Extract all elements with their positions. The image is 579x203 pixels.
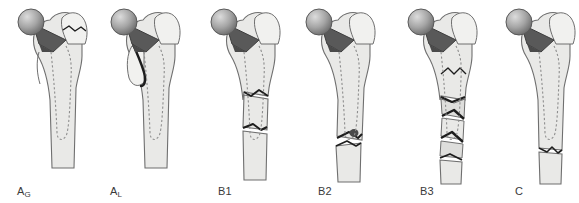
panel-al	[99, 0, 195, 203]
prosthesis-head-b1	[211, 9, 237, 35]
femur-shaft-distal-b2	[336, 143, 361, 182]
prosthesis-head-al	[111, 9, 137, 35]
panel-label-c-main: C	[515, 185, 523, 197]
panel-label-b2-main: B2	[318, 185, 332, 197]
femur-shaft-distal-c	[539, 152, 562, 184]
panel-label-ag-main: A	[17, 185, 25, 197]
panel-label-b3: B3	[420, 185, 434, 197]
femur-illustration-b2	[294, 0, 390, 203]
prosthesis-head-b2	[306, 9, 332, 35]
femur-shaft-segment-distal-b1	[243, 131, 267, 180]
femur-illustration-c	[494, 0, 579, 203]
panel-label-c: C	[515, 185, 523, 197]
vancouver-classification-figure: AG AL	[0, 0, 579, 203]
panel-label-b1: B1	[218, 185, 232, 197]
femur-illustration-b1	[199, 0, 295, 203]
panel-c	[494, 0, 579, 203]
panel-label-b2: B2	[318, 185, 332, 197]
prosthesis-head-b3	[408, 9, 434, 35]
prosthesis-head-ag	[18, 9, 44, 35]
prosthesis-head-c	[506, 9, 532, 35]
femur-illustration-al	[99, 0, 195, 203]
panel-label-al-main: A	[110, 185, 118, 197]
panel-label-al-sub: L	[118, 190, 123, 199]
panel-b1	[199, 0, 295, 203]
femur-illustration-b3	[396, 0, 492, 203]
panel-label-ag-sub: G	[25, 190, 31, 199]
femur-shaft-distal-b3	[440, 160, 462, 184]
panel-label-b3-main: B3	[420, 185, 434, 197]
panel-label-ag: AG	[17, 185, 31, 197]
panel-b2	[294, 0, 390, 203]
panel-b3	[396, 0, 492, 203]
panel-label-b1-main: B1	[218, 185, 232, 197]
stem-tip-loosening-b2	[350, 129, 359, 137]
femur-illustration-ag	[6, 0, 102, 203]
panel-label-al: AL	[110, 185, 122, 197]
panel-ag	[6, 0, 102, 203]
